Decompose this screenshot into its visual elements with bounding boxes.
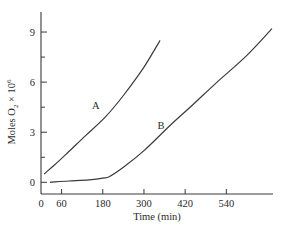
y-axis-label-sup: 6 (5, 79, 13, 83)
x-tick-label: 180 (95, 198, 111, 209)
y-tick-label: 3 (30, 127, 35, 138)
y-tick-label: 6 (30, 77, 35, 88)
series-label-b: B (158, 120, 165, 131)
x-tick-label: 0 (38, 198, 43, 209)
axes (41, 12, 273, 194)
x-tick-label: 540 (218, 198, 234, 209)
x-tick-label: 420 (177, 198, 193, 209)
x-axis-label: Time (min) (133, 211, 181, 223)
y-tick-label: 0 (30, 177, 35, 188)
series-line-b (50, 29, 272, 183)
series-line-a (44, 40, 160, 174)
y-axis-label-times: × 10 (6, 83, 17, 105)
y-axis-label-main: Moles O (6, 108, 17, 145)
y-tick-label: 9 (30, 27, 35, 38)
series-label-a: A (92, 100, 100, 111)
x-tick-label: 60 (56, 198, 67, 209)
series-group: AB (44, 29, 272, 183)
y-axis-label: Moles O2 × 106 (5, 79, 20, 145)
oxygen-time-chart: 0601803004205400369 AB Time (min) Moles … (0, 0, 284, 233)
x-tick-label: 300 (136, 198, 152, 209)
